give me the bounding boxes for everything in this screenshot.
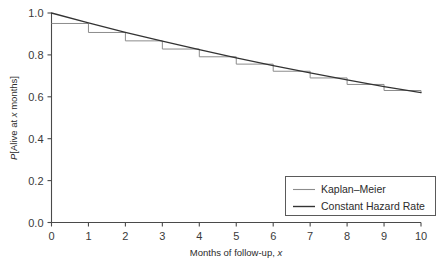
x-tick-label: 5: [233, 230, 239, 242]
legend-label-constant-hazard-rate: Constant Hazard Rate: [321, 200, 425, 212]
chart-figure: 0.00.20.40.60.81.0 012345678910 Months o…: [0, 0, 442, 264]
chart-background: [0, 0, 442, 264]
survival-curve-chart: 0.00.20.40.60.81.0 012345678910 Months o…: [0, 0, 442, 264]
y-tick-label: 0.0: [28, 217, 43, 229]
x-tick-label: 2: [122, 230, 128, 242]
x-tick-label: 8: [344, 230, 350, 242]
y-axis-title: P[Alive at x months]: [8, 76, 19, 160]
x-tick-label: 1: [85, 230, 91, 242]
x-tick-label: 10: [415, 230, 427, 242]
x-tick-label: 9: [381, 230, 387, 242]
y-tick-label: 0.2: [28, 175, 43, 187]
chart-legend: Kaplan–Meier Constant Hazard Rate: [286, 177, 436, 216]
x-tick-label: 6: [270, 230, 276, 242]
x-tick-label: 7: [307, 230, 313, 242]
legend-label-kaplan-meier: Kaplan–Meier: [321, 183, 386, 195]
x-axis-title: Months of follow-up, x: [190, 247, 284, 258]
y-tick-label: 0.6: [28, 91, 43, 103]
x-tick-label: 3: [159, 230, 165, 242]
x-tick-label: 0: [48, 230, 54, 242]
y-tick-label: 0.8: [28, 49, 43, 61]
x-tick-label: 4: [196, 230, 202, 242]
y-tick-label: 1.0: [28, 7, 43, 19]
y-tick-label: 0.4: [28, 133, 43, 145]
